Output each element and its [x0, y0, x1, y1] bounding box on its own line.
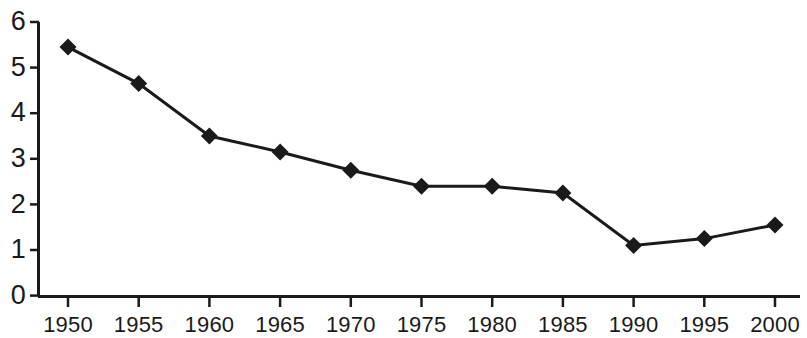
data-series-line	[68, 47, 775, 245]
x-tick-label-2000: 2000	[735, 314, 807, 336]
x-tick-label-1955: 1955	[99, 314, 179, 336]
data-point-1965	[272, 143, 289, 160]
data-point-1970	[342, 162, 359, 179]
data-point-markers	[60, 39, 784, 254]
chart-plot-area	[0, 0, 807, 338]
x-tick-label-1970: 1970	[311, 314, 391, 336]
y-tick-label-1: 1	[0, 236, 26, 263]
x-tick-label-1985: 1985	[523, 314, 603, 336]
data-point-1995	[696, 230, 713, 247]
y-tick-label-6: 6	[0, 8, 26, 35]
x-tick-label-1995: 1995	[664, 314, 744, 336]
y-tick-label-2: 2	[0, 191, 26, 218]
x-tick-label-1960: 1960	[169, 314, 249, 336]
x-tick-label-1950: 1950	[28, 314, 108, 336]
y-tick-label-5: 5	[0, 54, 26, 81]
y-tick-label-4: 4	[0, 99, 26, 126]
y-tick-label-3: 3	[0, 145, 26, 172]
data-point-1980	[484, 178, 501, 195]
y-tick-label-0: 0	[0, 282, 26, 309]
x-tick-label-1990: 1990	[594, 314, 674, 336]
data-point-1950	[60, 39, 77, 56]
data-point-1975	[413, 178, 430, 195]
x-tick-label-1975: 1975	[382, 314, 462, 336]
x-tick-label-1965: 1965	[240, 314, 320, 336]
line-chart: 6 5 4 3 2 1 0 1950 1955 1960 1965 1970 1…	[0, 0, 807, 338]
x-tick-label-1980: 1980	[452, 314, 532, 336]
data-point-2000	[767, 216, 784, 233]
